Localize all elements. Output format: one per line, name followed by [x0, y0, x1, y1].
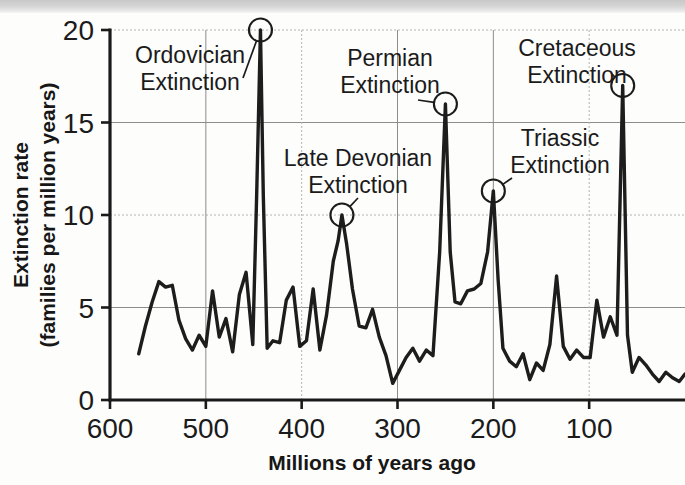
annotation-ordovician-line2: Extinction — [140, 69, 240, 95]
leader-line-triassic — [503, 178, 512, 184]
x-tick-label-600: 600 — [87, 413, 134, 444]
x-tick-label-300: 300 — [374, 413, 421, 444]
annotation-late-devonian-line2: Extinction — [308, 172, 408, 198]
y-axis-title-line2: (families per million years) — [36, 83, 59, 348]
y-tick-label-20: 20 — [63, 15, 94, 46]
annotation-late-devonian-line1: Late Devonian — [284, 145, 432, 171]
annotation-permian-line1: Permian — [347, 45, 433, 71]
x-axis-title: Millions of years ago — [268, 451, 476, 474]
leader-line-late-devonian — [350, 198, 358, 207]
annotation-cretaceous-line1: Cretaceous — [518, 35, 636, 61]
annotation-ordovician-line1: Ordovician — [135, 42, 245, 68]
y-tick-label-15: 15 — [63, 108, 94, 139]
x-tick-label-200: 200 — [470, 413, 517, 444]
x-tick-label-100: 100 — [566, 413, 613, 444]
y-tick-label-5: 5 — [78, 293, 94, 324]
leader-line-ordovician — [243, 41, 257, 78]
y-axis-title-line1: Extinction rate — [9, 142, 32, 288]
x-tick-labels: 600500400300200100 — [87, 413, 613, 444]
y-tick-label-0: 0 — [78, 385, 94, 416]
annotation-triassic-line1: Triassic — [521, 125, 599, 151]
event-annotations: Ordovician Extinction Late Devonian Exti… — [135, 35, 636, 198]
figure-page: 05101520 600500400300200100 Ordovician E… — [0, 0, 685, 485]
annotation-cretaceous-line2: Extinction — [527, 62, 627, 88]
annotation-triassic-line2: Extinction — [510, 152, 610, 178]
x-tick-label-400: 400 — [278, 413, 325, 444]
y-tick-labels: 05101520 — [63, 15, 94, 416]
extinction-rate-line-chart: 05101520 600500400300200100 Ordovician E… — [0, 0, 685, 485]
leader-line-permian — [418, 100, 434, 102]
y-tick-label-10: 10 — [63, 200, 94, 231]
x-tick-label-500: 500 — [182, 413, 229, 444]
annotation-permian-line2: Extinction — [340, 72, 440, 98]
